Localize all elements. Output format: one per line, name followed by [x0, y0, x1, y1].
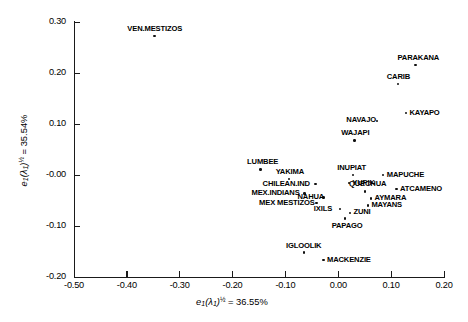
data-point-label: INUPIAT	[337, 164, 366, 172]
data-point[interactable]	[353, 139, 355, 141]
data-point-label: IXILS	[314, 205, 332, 213]
data-point[interactable]	[322, 259, 324, 261]
x-axis-line	[74, 277, 445, 278]
x-tick-label: -0.30	[154, 281, 206, 290]
x-tick-mark	[179, 271, 180, 277]
x-axis-title: e1(λ1)½ = 36.55%	[196, 296, 268, 307]
x-tick-mark	[126, 271, 127, 277]
data-point-label: KAYAPO	[409, 109, 439, 117]
data-point[interactable]	[349, 212, 351, 214]
data-point-label: WAJAPI	[341, 129, 369, 137]
data-point-label: MAYANS	[371, 201, 402, 209]
data-point-label: CARIB	[387, 73, 410, 81]
data-point-label: NAVAJO	[346, 116, 376, 124]
data-point[interactable]	[414, 64, 416, 66]
y-axis-title-value: = 35.54%	[18, 115, 29, 157]
y-tick-mark	[74, 124, 80, 125]
x-tick-label: -0.40	[101, 281, 153, 290]
data-point-label: ZUNI	[353, 208, 370, 216]
y-tick-label: 0.30	[20, 17, 66, 26]
data-point-label: MACKENZIE	[327, 256, 371, 264]
y-tick-mark	[74, 73, 80, 74]
data-point-label: IGLOOLIK	[286, 242, 322, 250]
x-tick-mark	[74, 271, 75, 277]
x-tick-label: 0.20	[418, 281, 468, 290]
data-point-label: YAKIMA	[276, 168, 304, 176]
y-tick-mark	[74, 277, 80, 278]
x-axis-title-value: = 36.55%	[225, 296, 267, 307]
data-point[interactable]	[339, 208, 341, 210]
x-tick-label: -0.10	[259, 281, 311, 290]
x-tick-mark	[285, 271, 286, 277]
data-point-label: LUMBEE	[247, 158, 278, 166]
data-point[interactable]	[303, 251, 305, 253]
x-tick-label: -0.50	[48, 281, 100, 290]
data-point-label: VEN.MESTIZOS	[127, 25, 182, 33]
x-tick-label: -0.20	[207, 281, 259, 290]
data-point-label: MEX.INDIANS	[251, 189, 299, 197]
y-axis-line	[74, 21, 75, 278]
y-tick-label: -0.20	[20, 272, 66, 281]
data-point[interactable]	[259, 168, 261, 170]
data-point-label: QUECHUA	[349, 180, 386, 188]
x-tick-mark	[444, 271, 445, 277]
y-tick-mark	[74, 22, 80, 23]
x-tick-label: 0.00	[312, 281, 364, 290]
x-tick-mark	[391, 271, 392, 277]
data-point-label: MAPUCHE	[387, 171, 424, 179]
data-point[interactable]	[153, 35, 155, 37]
x-tick-mark	[338, 271, 339, 277]
x-tick-label: 0.10	[365, 281, 417, 290]
data-point[interactable]	[405, 112, 407, 114]
data-point[interactable]	[376, 120, 378, 122]
data-point[interactable]	[314, 183, 316, 185]
data-point[interactable]	[344, 217, 346, 219]
data-point-label: PARAKANA	[397, 54, 439, 62]
y-tick-mark	[74, 175, 80, 176]
data-point[interactable]	[382, 174, 384, 176]
data-point[interactable]	[364, 190, 366, 192]
scatter-plot-figure: 0.300.200.10-0.00-0.10-0.20 -0.50-0.40-0…	[0, 0, 468, 322]
data-point[interactable]	[352, 174, 354, 176]
data-point[interactable]	[395, 188, 397, 190]
y-tick-mark	[74, 226, 80, 227]
data-point[interactable]	[397, 83, 399, 85]
y-axis-title: e1(λ1)½ = 35.54%	[18, 76, 29, 226]
data-point-label: MEX MESTIZOS	[259, 199, 315, 207]
data-point-label: ATCAMENO	[400, 185, 442, 193]
data-point-label: CHILEAN.IND	[263, 180, 310, 188]
data-point-label: PAPAGO	[332, 222, 363, 230]
x-tick-mark	[232, 271, 233, 277]
